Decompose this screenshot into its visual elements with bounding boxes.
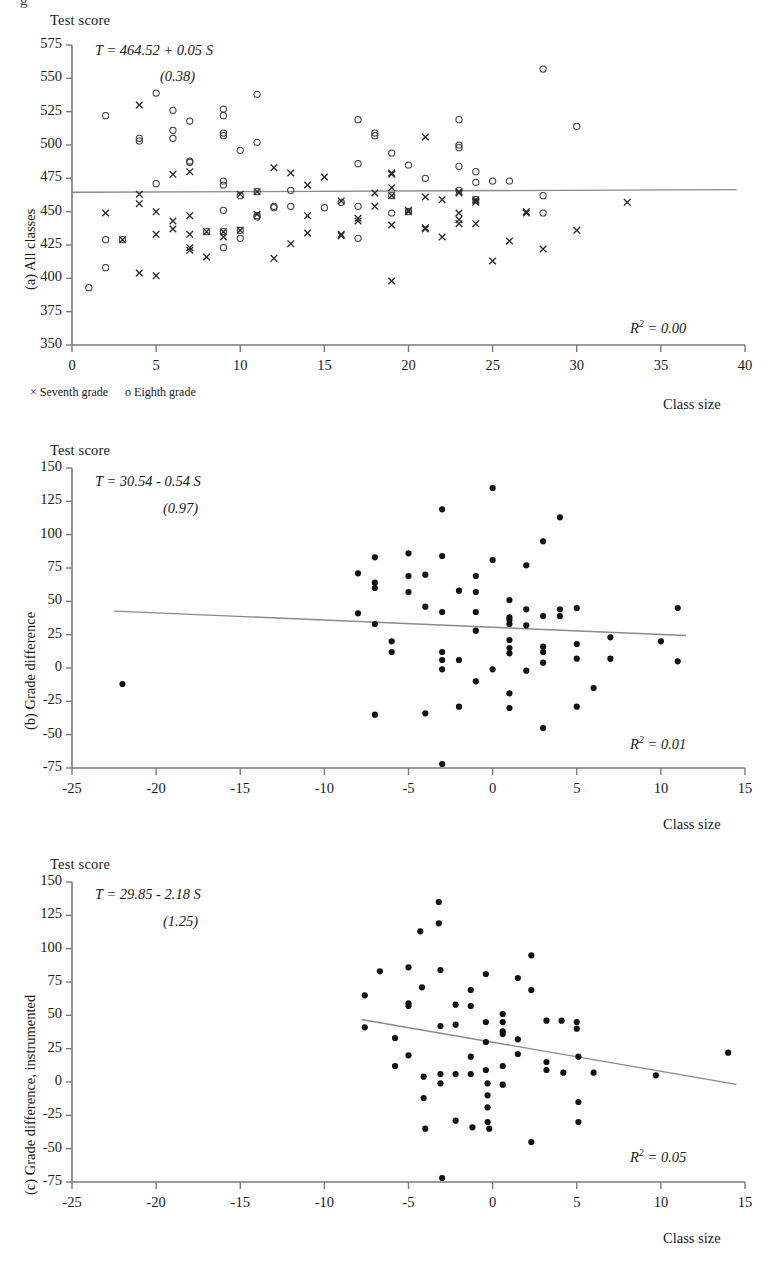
x-tick-label: -20 bbox=[136, 780, 176, 797]
x-tick-label: 10 bbox=[641, 780, 681, 797]
x-tick-label: -15 bbox=[220, 780, 260, 797]
y-tick-label: -25 bbox=[18, 691, 62, 708]
y-tick-label: 425 bbox=[18, 235, 62, 252]
y-tick-label: -75 bbox=[18, 1172, 62, 1189]
x-tick-label: 15 bbox=[725, 780, 765, 797]
x-tick-label: -10 bbox=[304, 1194, 344, 1211]
y-tick-label: 550 bbox=[18, 68, 62, 85]
y-tick-label: -25 bbox=[18, 1105, 62, 1122]
x-tick-label: 5 bbox=[557, 1194, 597, 1211]
y-tick-label: 150 bbox=[18, 872, 62, 889]
y-tick-label: 575 bbox=[18, 35, 62, 52]
y-tick-label: 50 bbox=[18, 591, 62, 608]
x-tick-label: -25 bbox=[52, 1194, 92, 1211]
x-tick-label: -20 bbox=[136, 1194, 176, 1211]
y-tick-label: 100 bbox=[18, 939, 62, 956]
y-tick-label: 475 bbox=[18, 168, 62, 185]
x-tick-label: 20 bbox=[389, 357, 429, 374]
x-tick-label: 5 bbox=[557, 780, 597, 797]
y-tick-label: 25 bbox=[18, 1039, 62, 1056]
y-tick-label: 0 bbox=[18, 1072, 62, 1089]
x-tick-label: -5 bbox=[389, 780, 429, 797]
panel-b-plot-area bbox=[0, 420, 767, 840]
y-tick-label: 450 bbox=[18, 202, 62, 219]
x-tick-label: 0 bbox=[473, 1194, 513, 1211]
x-tick-label: -5 bbox=[389, 1194, 429, 1211]
x-tick-label: 40 bbox=[725, 357, 765, 374]
panel-a-all-classes: Test score (a) All classes T = 464.52 + … bbox=[0, 0, 767, 420]
panel-b-grade-difference: Test score (b) Grade difference T = 30.5… bbox=[0, 420, 767, 840]
y-tick-label: 125 bbox=[18, 905, 62, 922]
y-tick-label: 0 bbox=[18, 658, 62, 675]
y-tick-label: 375 bbox=[18, 302, 62, 319]
x-tick-label: -25 bbox=[52, 780, 92, 797]
y-tick-label: 75 bbox=[18, 558, 62, 575]
x-tick-label: 30 bbox=[557, 357, 597, 374]
x-tick-label: 0 bbox=[52, 357, 92, 374]
y-tick-label: -75 bbox=[18, 758, 62, 775]
y-tick-label: 350 bbox=[18, 335, 62, 352]
x-tick-label: 25 bbox=[473, 357, 513, 374]
y-tick-label: 25 bbox=[18, 625, 62, 642]
x-tick-label: 15 bbox=[725, 1194, 765, 1211]
y-tick-label: -50 bbox=[18, 725, 62, 742]
y-tick-label: 525 bbox=[18, 102, 62, 119]
y-tick-label: 400 bbox=[18, 268, 62, 285]
x-tick-label: 5 bbox=[136, 357, 176, 374]
panel-c-grade-difference-instrumented: Test score (c) Grade difference, instrum… bbox=[0, 840, 767, 1269]
y-tick-label: -50 bbox=[18, 1139, 62, 1156]
y-tick-label: 150 bbox=[18, 458, 62, 475]
x-tick-label: 15 bbox=[304, 357, 344, 374]
x-tick-label: 10 bbox=[641, 1194, 681, 1211]
y-tick-label: 75 bbox=[18, 972, 62, 989]
y-tick-label: 50 bbox=[18, 1005, 62, 1022]
x-tick-label: 0 bbox=[473, 780, 513, 797]
y-tick-label: 100 bbox=[18, 525, 62, 542]
y-tick-label: 500 bbox=[18, 135, 62, 152]
y-tick-label: 125 bbox=[18, 491, 62, 508]
x-tick-label: 10 bbox=[220, 357, 260, 374]
x-tick-label: -15 bbox=[220, 1194, 260, 1211]
x-tick-label: -10 bbox=[304, 780, 344, 797]
x-tick-label: 35 bbox=[641, 357, 681, 374]
